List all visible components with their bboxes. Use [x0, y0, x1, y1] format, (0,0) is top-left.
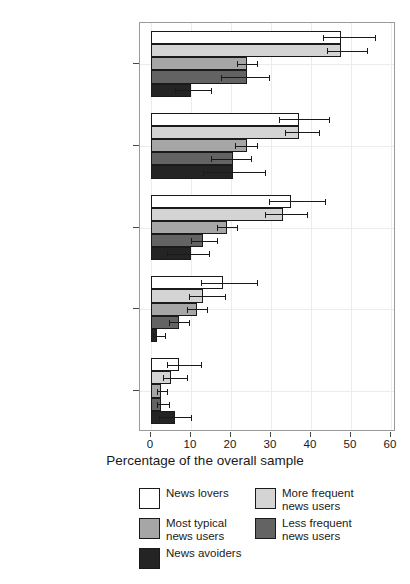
bar-row [151, 371, 396, 384]
error-bar [235, 146, 257, 147]
error-bar-cap [285, 130, 286, 136]
error-bar [285, 132, 319, 133]
error-bar [169, 322, 189, 323]
error-bar-cap [307, 212, 308, 218]
x-axis-tick-label: 60 [370, 438, 410, 450]
x-axis-tick [190, 432, 191, 437]
error-bar-cap [211, 156, 212, 162]
error-bar-cap [153, 333, 154, 339]
error-bar-cap [209, 251, 210, 257]
error-bar-cap [157, 389, 158, 395]
error-bar-cap [189, 320, 190, 326]
error-bar-cap [203, 170, 204, 176]
error-bar-cap [207, 307, 208, 313]
bar-row [151, 165, 396, 178]
error-bar-cap [217, 225, 218, 231]
error-bar-cap [167, 389, 168, 395]
legend-label: Less frequent news users [282, 517, 352, 542]
bar-row [151, 398, 396, 411]
legend-swatch [139, 518, 160, 539]
error-bar-cap [211, 88, 212, 94]
error-bar [157, 404, 169, 405]
error-bar-cap [257, 61, 258, 67]
y-axis-tick [133, 308, 139, 309]
bar-row [151, 195, 396, 208]
legend-swatch [255, 488, 276, 509]
bar [151, 126, 299, 139]
error-bar-cap [187, 375, 188, 381]
y-axis-tick [133, 63, 139, 64]
error-bar-cap [187, 307, 188, 313]
bar-group [140, 31, 394, 97]
x-axis-tick [150, 432, 151, 437]
error-bar-cap [201, 362, 202, 368]
bar [151, 113, 299, 126]
legend-label: News lovers [166, 487, 229, 500]
x-axis-tick-label: 50 [330, 438, 370, 450]
error-bar-cap [235, 143, 236, 149]
error-bar-cap [159, 415, 160, 421]
x-axis-tick [350, 432, 351, 437]
error-bar-cap [167, 251, 168, 257]
bar-row [151, 57, 396, 70]
error-bar-cap [221, 75, 222, 81]
x-axis-tick [390, 432, 391, 437]
error-bar [191, 241, 217, 242]
x-axis-tick-label: 0 [130, 438, 170, 450]
error-bar [203, 172, 265, 173]
error-bar [189, 296, 225, 297]
error-bar-cap [257, 143, 258, 149]
x-axis-tick-label: 30 [250, 438, 290, 450]
bar [151, 44, 341, 57]
x-axis-tick-label: 40 [290, 438, 330, 450]
error-bar [201, 283, 257, 284]
bar-row [151, 113, 396, 126]
y-axis-tick [133, 227, 139, 228]
error-bar-cap [325, 199, 326, 205]
bar [151, 208, 283, 221]
bar-row [151, 234, 396, 247]
error-bar-cap [269, 199, 270, 205]
bar-row [151, 152, 396, 165]
bar-row [151, 411, 396, 424]
bar-chart: Been interviewed by a journalist for a n… [0, 0, 410, 584]
error-bar [265, 214, 307, 215]
error-bar [167, 254, 209, 255]
bar-row [151, 84, 396, 97]
legend-item: News lovers [139, 487, 241, 513]
bar-row [151, 289, 396, 302]
error-bar [269, 201, 325, 202]
y-axis-tick [133, 145, 139, 146]
error-bar-cap [191, 415, 192, 421]
bar-group [140, 276, 394, 342]
error-bar-cap [189, 294, 190, 300]
error-bar [157, 391, 167, 392]
error-bar-cap [167, 362, 168, 368]
error-bar-cap [237, 225, 238, 231]
bar [151, 139, 247, 152]
bar-group [140, 195, 394, 261]
bar-row [151, 384, 396, 397]
legend-label: More frequent news users [282, 487, 354, 512]
error-bar [221, 77, 269, 78]
x-axis-tick [270, 432, 271, 437]
error-bar [279, 119, 329, 120]
error-bar-cap [191, 238, 192, 244]
x-axis-tick [310, 432, 311, 437]
error-bar-cap [217, 238, 218, 244]
bar-group [140, 113, 394, 179]
bar-group [140, 358, 394, 424]
plot-panel [139, 22, 395, 431]
legend-swatch [255, 518, 276, 539]
bar-row [151, 276, 396, 289]
error-bar-cap [169, 320, 170, 326]
error-bar-cap [329, 117, 330, 123]
error-bar [327, 51, 367, 52]
error-bar-cap [157, 402, 158, 408]
error-bar [237, 64, 257, 65]
error-bar-cap [367, 48, 368, 54]
bar-row [151, 126, 396, 139]
error-bar-cap [201, 280, 202, 286]
error-bar [211, 159, 251, 160]
bar-row [151, 208, 396, 221]
